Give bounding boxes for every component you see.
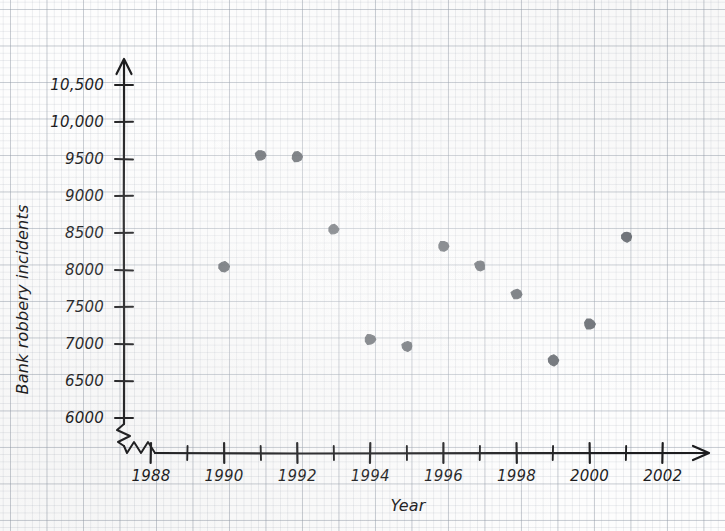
y-axis-title: Bank robbery incidents xyxy=(13,205,32,395)
graph-paper-background: 6000650070007500800085009000950010,00010… xyxy=(0,0,725,531)
y-axis xyxy=(117,59,132,446)
x-tick-label: 2000 xyxy=(570,467,609,485)
data-point xyxy=(475,261,485,271)
data-point xyxy=(255,151,266,160)
x-tick-label: 1992 xyxy=(278,467,317,485)
y-axis-break-zigzag xyxy=(117,424,130,446)
x-tick-label: 1994 xyxy=(351,467,390,485)
data-point xyxy=(219,262,230,272)
scatter-plot: 6000650070007500800085009000950010,00010… xyxy=(0,0,725,531)
data-point xyxy=(585,319,596,329)
x-tick-label: 2002 xyxy=(643,467,682,485)
data-point xyxy=(365,335,375,345)
y-tick-label: 9500 xyxy=(0,150,104,168)
x-tick-label: 1990 xyxy=(205,467,244,485)
y-tick-label: 9000 xyxy=(0,187,104,205)
x-tick-label: 1988 xyxy=(132,467,171,485)
data-point xyxy=(329,224,339,233)
y-tick-label: 10,500 xyxy=(0,76,104,94)
data-point xyxy=(511,289,522,298)
plot-canvas xyxy=(0,0,725,531)
y-tick-label: 6000 xyxy=(0,409,104,427)
x-axis-title: Year xyxy=(390,496,425,515)
data-point-markers xyxy=(219,151,632,366)
x-axis xyxy=(124,442,709,460)
data-point xyxy=(292,152,302,162)
x-tick-label: 1996 xyxy=(424,467,463,485)
y-tick-label: 10,000 xyxy=(0,113,104,131)
data-point xyxy=(622,232,632,242)
data-point xyxy=(548,355,558,366)
data-point xyxy=(439,241,449,251)
data-point xyxy=(402,342,412,352)
x-tick-label: 1998 xyxy=(497,467,536,485)
